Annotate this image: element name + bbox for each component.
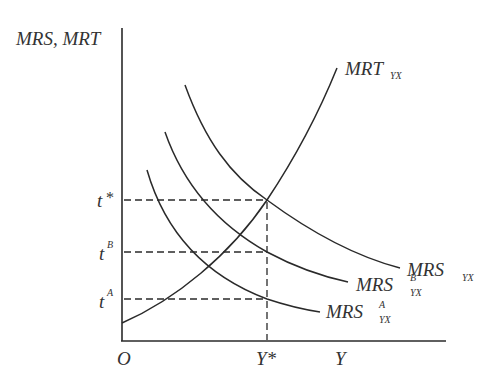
svg-text:B: B (107, 239, 113, 250)
t-star-label: t * (97, 189, 114, 211)
mrs-mrt-diagram: MRS, MRT O Y* Y t * t B t A MRT YX MRS Y… (0, 0, 499, 379)
mrs-b-curve (165, 132, 348, 282)
svg-text:A: A (378, 299, 386, 310)
mrs-a-curve (147, 170, 320, 312)
t-a-label: t A (99, 287, 114, 312)
svg-text:MRS: MRS (325, 301, 363, 322)
svg-text:MRS: MRS (355, 274, 393, 295)
x-marker-label: Y* (256, 348, 277, 369)
t-b-label: t B (99, 239, 113, 264)
origin-label: O (117, 348, 131, 369)
mrs-curve (185, 85, 400, 268)
svg-text:YX: YX (462, 272, 475, 283)
svg-text:YX: YX (390, 70, 403, 81)
svg-text:t: t (99, 243, 105, 264)
mrt-label: MRT YX (344, 58, 403, 81)
svg-text:YX: YX (410, 287, 423, 298)
svg-text:B: B (410, 272, 416, 283)
y-axis-label: MRS, MRT (15, 28, 102, 49)
mrt-curve (122, 68, 337, 323)
mrs-b-label: MRS YX B (355, 272, 423, 298)
x-axis-label: Y (335, 348, 348, 369)
svg-text:t: t (97, 190, 103, 211)
svg-text:MRT: MRT (344, 58, 384, 79)
svg-text:*: * (106, 189, 114, 206)
svg-text:t: t (99, 291, 105, 312)
mrs-label: MRS YX (406, 259, 475, 283)
svg-text:A: A (106, 287, 114, 298)
mrs-a-label: MRS YX A (325, 299, 392, 325)
svg-text:YX: YX (379, 314, 392, 325)
